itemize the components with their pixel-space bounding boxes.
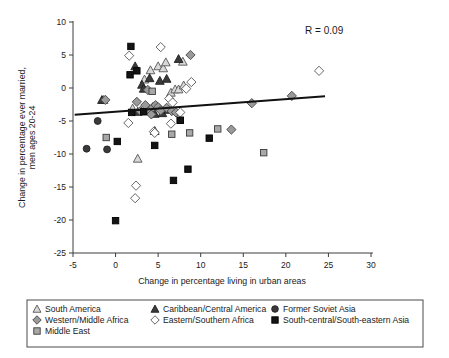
data-point: [186, 50, 195, 59]
data-point: [152, 142, 158, 148]
data-point: [169, 131, 175, 137]
data-point: [156, 76, 165, 84]
x-tick-label: 0: [113, 260, 118, 270]
data-point: [131, 181, 140, 190]
legend-marker-diamond-grey: [33, 316, 41, 324]
data-point: [185, 166, 191, 172]
data-point: [247, 99, 256, 108]
x-tick-label: 10: [196, 260, 206, 270]
data-point: [261, 149, 267, 155]
data-point: [125, 51, 134, 60]
data-point: [133, 154, 142, 162]
legend-label: Former Soviet Asia: [283, 304, 356, 314]
y-tick-label: 10: [57, 17, 67, 27]
data-point: [103, 134, 109, 140]
x-tick-label: 25: [324, 260, 334, 270]
y-tick-label: -5: [58, 116, 66, 126]
data-point: [83, 145, 90, 152]
legend-label: South America: [45, 304, 101, 314]
legend-item: Western/Middle Africa: [33, 315, 129, 325]
legend-label: Middle East: [45, 326, 91, 336]
legend-item: South-central/South-eastern Asia: [272, 315, 410, 325]
legend: South AmericaWestern/Middle AfricaMiddle…: [33, 304, 410, 336]
legend-item: Eastern/Southern Africa: [151, 315, 254, 325]
x-tick-label: 20: [281, 260, 291, 270]
scatter-plot-figure: 1050-5-10-15-20-25-5051015202530Change i…: [0, 0, 449, 358]
legend-item: Caribbean/Central America: [151, 304, 266, 314]
legend-item: Former Soviet Asia: [272, 304, 356, 314]
data-point: [134, 68, 140, 74]
data-point: [149, 88, 155, 94]
legend-marker-square-grey: [34, 328, 40, 334]
legend-marker-triangle-light: [33, 305, 41, 312]
data-point: [112, 217, 118, 223]
data-point: [227, 125, 236, 134]
data-points: [83, 42, 323, 223]
legend-label: Eastern/Southern Africa: [163, 315, 254, 325]
trend-line: [75, 96, 325, 114]
legend-marker-triangle-dark: [151, 305, 159, 312]
data-point: [128, 43, 134, 49]
data-point: [170, 177, 176, 183]
legend-marker-square-dark: [272, 317, 278, 323]
data-point: [114, 138, 120, 144]
y-tick-label: -10: [54, 149, 67, 159]
x-axis-title: Change in percentage living in urban are…: [138, 276, 306, 286]
y-tick-label: 0: [61, 83, 66, 93]
data-point: [162, 74, 171, 82]
data-point: [186, 130, 192, 136]
data-point: [131, 194, 140, 203]
data-point: [124, 118, 133, 127]
data-point: [156, 42, 165, 51]
x-tick-label: -5: [69, 260, 77, 270]
data-point: [215, 126, 221, 132]
correlation-annotation: R = 0.09: [305, 25, 344, 36]
series-3: [124, 42, 324, 202]
y-tick-label: -20: [54, 215, 67, 225]
y-tick-label: -15: [54, 182, 67, 192]
data-point: [94, 118, 101, 125]
legend-label: South-central/South-eastern Asia: [283, 315, 409, 325]
data-point: [177, 117, 183, 123]
y-tick-label: -25: [54, 248, 67, 258]
data-point: [314, 66, 323, 75]
legend-label: Western/Middle Africa: [45, 315, 129, 325]
legend-marker-diamond-open: [151, 316, 159, 324]
data-point: [127, 72, 133, 78]
legend-item: South America: [33, 304, 101, 314]
legend-label: Caribbean/Central America: [163, 304, 266, 314]
data-point: [104, 146, 111, 153]
data-point: [145, 74, 154, 82]
x-tick-label: 30: [366, 260, 376, 270]
plot-area: 1050-5-10-15-20-25-5051015202530Change i…: [17, 17, 423, 347]
data-point: [206, 135, 212, 141]
chart-canvas: 1050-5-10-15-20-25-5051015202530Change i…: [0, 0, 449, 358]
legend-item: Middle East: [34, 326, 91, 336]
data-point: [166, 119, 175, 128]
data-point: [161, 58, 170, 66]
x-tick-label: 15: [239, 260, 249, 270]
x-tick-label: 5: [156, 260, 161, 270]
y-axis-title-line2: men ages 20-24: [27, 106, 37, 170]
y-axis-title-line1: Change in percentage ever married,: [17, 67, 27, 208]
y-tick-label: 5: [61, 50, 66, 60]
legend-marker-circle-dark: [272, 306, 279, 313]
